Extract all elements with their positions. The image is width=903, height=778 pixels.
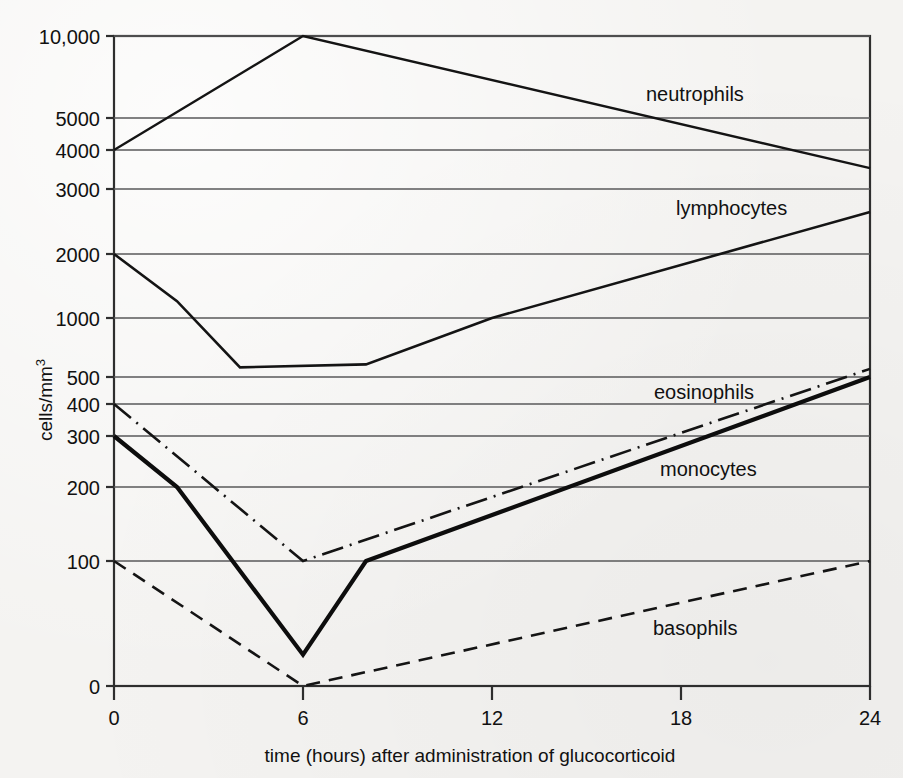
ytick-label-0: 0 (89, 676, 100, 698)
xtick-label-0: 0 (108, 707, 119, 729)
ytick-label-1000: 1000 (56, 308, 101, 330)
series-label-monocytes: monocytes (660, 458, 757, 480)
ytick-label-200: 200 (67, 477, 100, 499)
series-label-neutrophils: neutrophils (646, 83, 744, 105)
series-label-eosinophils: eosinophils (654, 381, 754, 403)
svg-text:cells/mm3: cells/mm3 (33, 359, 56, 441)
y-axis-title-text: cells/mm (35, 366, 56, 441)
xtick-label-24: 24 (859, 707, 881, 729)
series-line-neutrophils (114, 36, 870, 168)
y-tickmarks (106, 36, 114, 686)
x-axis (114, 686, 870, 700)
ytick-label-5000: 5000 (56, 108, 101, 130)
chart-page: 10,000 5000 4000 3000 2000 1000 500 400 … (0, 0, 903, 778)
series-line-basophils (114, 561, 870, 686)
ytick-label-100: 100 (67, 551, 100, 573)
ytick-label-4000: 4000 (56, 140, 101, 162)
series-line-lymphocytes (114, 212, 870, 367)
ytick-label-400: 400 (67, 394, 100, 416)
ytick-label-500: 500 (67, 367, 100, 389)
xtick-label-12: 12 (481, 707, 503, 729)
cell-counts-line-chart: 10,000 5000 4000 3000 2000 1000 500 400 … (0, 0, 903, 778)
ytick-label-2000: 2000 (56, 244, 101, 266)
xtick-label-6: 6 (297, 707, 308, 729)
xtick-label-18: 18 (670, 707, 692, 729)
plot-frame (114, 36, 870, 686)
ytick-label-300: 300 (67, 426, 100, 448)
y-axis-title: cells/mm3 (33, 359, 56, 441)
series-label-basophils: basophils (653, 617, 738, 639)
y-tick-labels: 10,000 5000 4000 3000 2000 1000 500 400 … (39, 26, 100, 698)
ytick-label-10000: 10,000 (39, 26, 100, 48)
series-label-lymphocytes: lymphocytes (676, 197, 787, 219)
ytick-label-3000: 3000 (56, 179, 101, 201)
x-axis-title: time (hours) after administration of glu… (265, 745, 676, 766)
series-line-monocytes (114, 377, 870, 655)
y-axis-title-superscript: 3 (33, 359, 48, 366)
series-labels: neutrophils lymphocytes eosinophils mono… (646, 83, 787, 639)
series-paths (114, 36, 870, 686)
gridlines (114, 36, 870, 686)
x-tick-labels: 0 6 12 18 24 (108, 707, 881, 729)
